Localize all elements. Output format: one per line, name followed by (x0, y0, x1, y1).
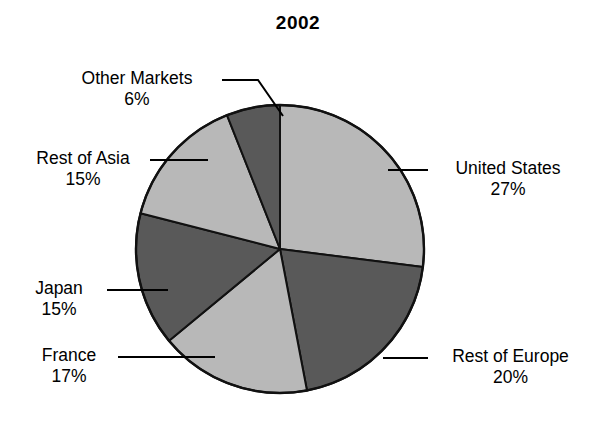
label-france-value: 17% (24, 366, 114, 387)
pie-slice-united-states[interactable] (280, 105, 424, 267)
label-other-markets-name: Other Markets (82, 68, 193, 88)
label-japan-name: Japan (35, 278, 83, 298)
label-other-markets-value: 6% (52, 89, 222, 110)
label-rest-of-europe: Rest of Europe 20% (433, 346, 588, 389)
label-united-states-value: 27% (433, 179, 583, 200)
label-united-states-name: United States (455, 158, 560, 178)
label-other-markets: Other Markets 6% (52, 68, 222, 111)
label-rest-of-asia: Rest of Asia 15% (20, 148, 146, 191)
label-rest-of-europe-name: Rest of Europe (452, 346, 569, 366)
pie-chart-figure: 2002 Other Markets 6% Rest of Asia 15% J (0, 0, 596, 438)
label-japan-value: 15% (15, 299, 103, 320)
label-rest-of-asia-name: Rest of Asia (36, 148, 129, 168)
label-united-states: United States 27% (433, 158, 583, 201)
label-rest-of-asia-value: 15% (20, 169, 146, 190)
label-rest-of-europe-value: 20% (433, 367, 588, 388)
label-japan: Japan 15% (15, 278, 103, 321)
label-france-name: France (42, 345, 96, 365)
label-france: France 17% (24, 345, 114, 388)
